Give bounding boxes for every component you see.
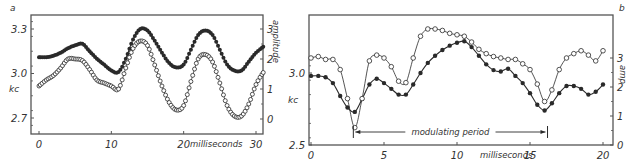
data-point-open [193,67,197,71]
data-point-open [247,102,251,106]
data-point-filled [499,69,503,73]
panel-b: b3.02.5kc3210amp05101520millisecondsmodu… [288,3,628,161]
data-point-open [557,67,562,72]
data-point-open [309,56,314,61]
data-point-filled [594,90,598,94]
data-point-filled [193,40,197,44]
data-point-open [221,93,225,97]
data-point-open [120,78,124,82]
data-point-open [129,50,133,54]
data-point-open [601,48,606,53]
data-point-open [118,83,122,87]
data-point-open [214,70,218,74]
data-point-filled [218,48,222,52]
data-point-filled [216,44,220,48]
data-point-open [254,83,258,87]
panel-a: a3.33.02.7kc3210amplitude0102030millisec… [9,3,281,150]
data-point-open [411,56,416,61]
data-point-open [506,57,511,62]
data-point-filled [375,77,379,81]
panel-letter: b [619,3,625,13]
data-point-filled [535,102,539,106]
data-point-open [331,57,336,62]
data-point-filled [411,82,415,86]
data-point-filled [426,61,430,65]
data-point-open [535,82,540,87]
data-point-filled [572,84,576,88]
data-point-filled [564,84,568,88]
data-point-filled [579,87,583,91]
data-point-filled [513,74,517,78]
data-point-filled [323,75,327,79]
x-tick-label: 10 [105,139,118,150]
data-point-open [469,40,474,45]
data-point-filled [261,45,265,49]
data-point-open [261,71,265,75]
data-point-filled [191,44,195,48]
y-tick-label: 3.0 [11,68,27,79]
data-point-open [153,63,157,67]
y-tick-label: 2.5 [289,140,305,151]
data-point-filled [404,92,408,96]
data-point-open [572,51,577,56]
data-point-open [360,96,365,101]
annotation-label: modulating period [411,127,490,137]
y-axis-label: kc [9,84,19,94]
data-point-filled [448,43,452,47]
y-axis-label: kc [288,95,298,105]
data-point-open [211,60,215,64]
x-axis-label: milliseconds [480,150,533,160]
data-point-open [124,66,128,70]
data-point-filled [586,92,590,96]
data-point-filled [542,108,546,112]
x-axis-label: milliseconds [190,139,243,149]
data-point-filled [440,48,444,52]
data-point-open [316,54,321,59]
data-point-open [162,89,166,93]
data-point-open [155,68,159,72]
data-point-open [323,57,328,62]
data-point-open [160,84,164,88]
data-point-open [127,55,131,59]
data-point-open [542,99,547,104]
data-point-open [189,80,193,84]
data-point-open [499,56,504,61]
data-point-filled [338,94,342,98]
data-point-open [164,93,168,97]
data-point-filled [214,40,218,44]
data-point-open [593,59,598,64]
data-point-open [183,99,187,103]
data-point-open [550,88,555,93]
data-point-open [404,80,409,85]
figure: a3.33.02.7kc3210amplitude0102030millisec… [0,0,634,167]
data-point-open [484,51,489,56]
data-point-open [250,92,254,96]
data-point-filled [506,66,510,70]
data-point-open [191,73,195,77]
data-point-open [185,93,189,97]
y-tick-label: 3.3 [11,24,27,35]
data-point-open [382,56,387,61]
y-right-axis-label: amplitude [271,20,281,63]
data-point-open [477,47,482,52]
data-point-open [462,34,467,39]
data-point-open [126,61,130,65]
data-point-open [245,106,249,110]
data-point-open [513,57,518,62]
data-point-filled [469,45,473,49]
data-point-filled [491,68,495,72]
data-point-filled [331,81,335,85]
x-tick-label: 10 [451,150,464,161]
data-point-open [182,104,186,108]
data-point-filled [187,52,191,56]
data-point-open [433,27,438,32]
data-point-open [158,79,162,83]
data-point-open [220,87,224,91]
data-point-open [338,67,343,72]
data-point-open [149,52,153,56]
data-point-filled [521,81,525,85]
data-point-open [218,81,222,85]
data-point-open [194,61,198,65]
panel-letter: a [10,3,16,13]
data-point-open [151,58,155,62]
